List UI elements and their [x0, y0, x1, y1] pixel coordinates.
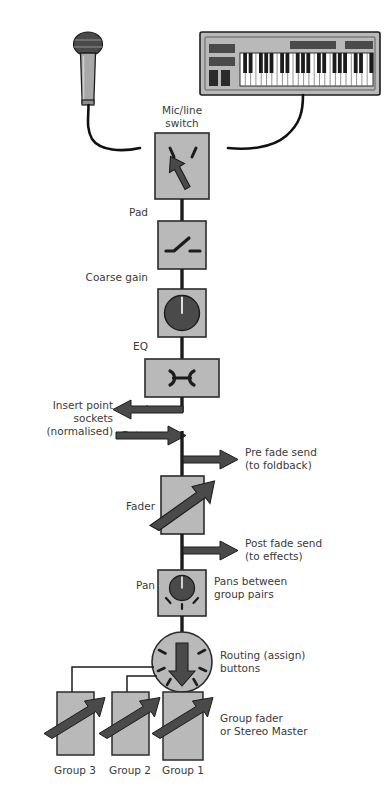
- post-fade-send-label-line1: Post fade send: [245, 537, 322, 549]
- diagram-canvas: Mic/line switch Pad Coarse gain EQ: [0, 0, 388, 808]
- pre-fade-send-label-line1: Pre fade send: [245, 446, 317, 458]
- group-note-line1: Group fader: [220, 712, 284, 724]
- pre-fade-send-label-line2: (to foldback): [245, 459, 312, 471]
- pad-box[interactable]: [158, 221, 206, 269]
- pan-note-line2: group pairs: [214, 588, 274, 600]
- pan-label: Pan: [136, 579, 155, 591]
- mic-line-switch-label-line2: switch: [165, 117, 199, 129]
- keyboard-icon: [200, 32, 380, 95]
- mixer-signal-path-diagram: Mic/line switch Pad Coarse gain EQ: [0, 0, 388, 808]
- eq-box[interactable]: [145, 359, 219, 397]
- group-1-label: Group 1: [162, 764, 204, 776]
- group-3-label: Group 3: [54, 764, 96, 776]
- mic-line-switch-label-line1: Mic/line: [162, 104, 202, 116]
- routing-assign-circle[interactable]: [152, 632, 212, 692]
- insert-point-label-line3: (normalised): [47, 425, 114, 437]
- coarse-gain-label: Coarse gain: [86, 271, 148, 283]
- eq-label: EQ: [133, 340, 148, 352]
- pad-label: Pad: [129, 206, 148, 218]
- insert-point-label-line1: Insert point: [53, 399, 113, 411]
- pan-note-line1: Pans between: [214, 575, 287, 587]
- coarse-gain-box[interactable]: [158, 289, 206, 337]
- post-fade-send-label-line2: (to effects): [245, 550, 303, 562]
- fader-label: Fader: [126, 500, 156, 512]
- routing-note-line1: Routing (assign): [220, 649, 305, 661]
- group-2-label: Group 2: [109, 764, 151, 776]
- mic-line-switch-box[interactable]: [155, 133, 209, 199]
- pan-box[interactable]: [158, 570, 206, 616]
- group-note-line2: or Stereo Master: [220, 725, 308, 737]
- routing-note-line2: buttons: [220, 662, 260, 674]
- insert-point-label-line2: sockets: [74, 412, 113, 424]
